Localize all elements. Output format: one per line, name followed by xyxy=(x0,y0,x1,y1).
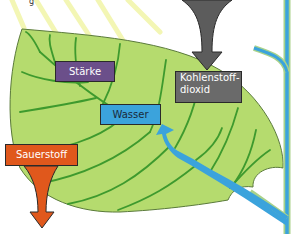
sauerstoff-text: Sauerstoff xyxy=(16,149,67,161)
co2-text-line2: dioxid xyxy=(180,84,210,96)
co2-text-line1: Kohlenstoff- xyxy=(180,72,240,84)
staerke-text: Stärke xyxy=(69,66,101,78)
staerke-label: Stärke xyxy=(55,61,115,82)
wasser-text: Wasser xyxy=(112,109,148,121)
kohlenstoffdioxid-label: Kohlenstoff- dioxid xyxy=(175,71,242,103)
title-fragment: g xyxy=(29,0,34,6)
wasser-label: Wasser xyxy=(100,104,161,125)
sauerstoff-label: Sauerstoff xyxy=(5,144,78,166)
